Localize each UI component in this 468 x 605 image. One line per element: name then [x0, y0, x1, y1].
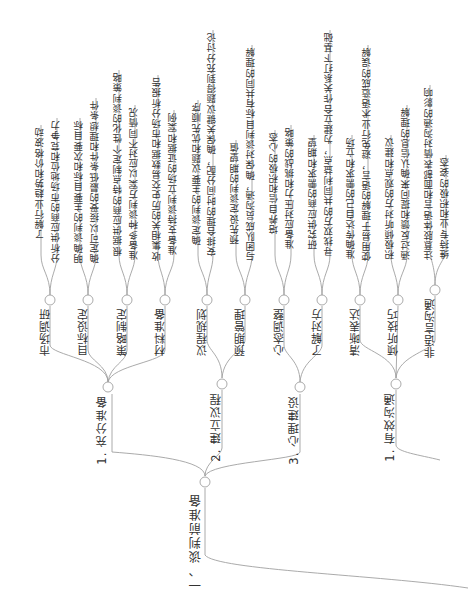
branch-3-mental-preparation[interactable]: 3. 心理建设	[289, 395, 301, 465]
leaf[interactable]: 培养自信和积极的心态	[269, 132, 279, 234]
leaf[interactable]: 分析供应商的市场地位和竞争力	[51, 120, 61, 263]
sub-nonverbal[interactable]: 非语言沟通	[425, 298, 436, 358]
branch-1-sufficient-preparation[interactable]: 1. 充分准备	[97, 395, 109, 465]
sub-expectation-management[interactable]: 预期管理	[235, 308, 246, 356]
leaf[interactable]: 注意肢体语言和面部表情对沟通的影响	[424, 87, 434, 260]
sub-goal-setting[interactable]: 目标设定	[78, 308, 89, 356]
leaf[interactable]: 准备多种谈判方案以应对不同情况	[129, 107, 139, 260]
leaf[interactable]: 明确谈判的主要目标和次要目标	[74, 120, 84, 263]
sub-market-research[interactable]: 市场调研	[40, 308, 51, 356]
leaf[interactable]: 维持专业和积极的姿态	[440, 157, 450, 259]
leaf[interactable]: 预先设定谈判的期望值	[230, 142, 240, 244]
leaf[interactable]: 寻找双方的共同利益点，为建立合作关系打下基础	[324, 32, 334, 256]
leaf[interactable]: 根据供应商的特点制定个性化的谈判策略	[113, 72, 123, 256]
leaf[interactable]: 通过反馈和提问来确认信息的理解	[401, 107, 411, 260]
branch-effective-communication[interactable]: 1. 有效沟通	[385, 392, 397, 462]
leaf[interactable]: 确定可以接受的最低条件和理想条件	[90, 100, 100, 263]
leaf[interactable]: 积极倾听对方的观点和建议	[385, 137, 395, 259]
leaf[interactable]: 准备应对压力和挑战的策略	[285, 127, 295, 249]
leaf[interactable]: 研究供应商的需求和期望	[308, 137, 318, 249]
root-node[interactable]: 一、谈判前准备	[190, 493, 203, 591]
sub-listening[interactable]: 倾听技巧	[388, 308, 399, 356]
leaf[interactable]: 准确传达自己的需求和立场	[346, 137, 356, 259]
sub-clear-expression[interactable]: 清晰表达	[350, 308, 361, 356]
sub-agenda-planning[interactable]: 议程规划	[197, 308, 208, 356]
leaf[interactable]: 与团队成员沟通，确保对谈判目标有共同的理解	[246, 47, 256, 261]
leaf[interactable]: 使用易于理解的语言，避免行业术语造成的误解	[362, 47, 372, 261]
leaf[interactable]: 了解行业趋势和价格波动	[35, 127, 45, 239]
sub-materials[interactable]: 材料准备	[155, 308, 166, 356]
connector-lines	[0, 0, 468, 605]
branch-2-build-agenda[interactable]: 2. 建立议程	[211, 392, 223, 462]
sub-mindset[interactable]: 心态调整	[274, 308, 285, 356]
leaf[interactable]: 确定谈判的主要议题和优先顺序	[192, 102, 202, 245]
leaf[interactable]: 准备支持谈判立场的证据和案例	[168, 112, 178, 255]
sub-strategy[interactable]: 策略制定	[117, 308, 128, 356]
leaf[interactable]: 安排合理的时间分配，确保关键议题得到充分讨论	[207, 32, 217, 256]
sub-know-counterpart[interactable]: 了解对方	[312, 308, 323, 356]
leaf[interactable]: 收集相关的历史交易数据和市场分析报告	[152, 77, 162, 261]
